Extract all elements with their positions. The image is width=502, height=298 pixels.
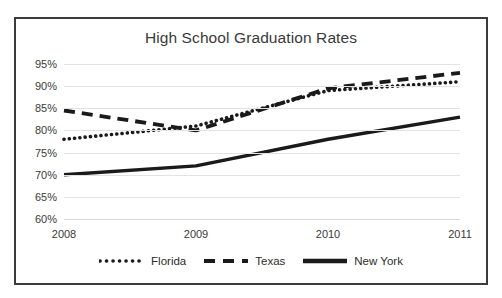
- solid-line-swatch: [302, 256, 348, 266]
- x-axis-tick-label: 2008: [52, 228, 76, 240]
- gridline: [64, 153, 460, 154]
- series-lines: [64, 64, 460, 219]
- y-axis-tick-label: 80%: [35, 124, 57, 136]
- y-axis-tick-label: 60%: [35, 213, 57, 225]
- y-axis-tick-label: 95%: [35, 58, 57, 70]
- chart-legend: FloridaTexasNew York: [16, 255, 486, 267]
- scan-margin: [0, 0, 502, 8]
- dashed-line-swatch: [203, 256, 249, 266]
- legend-item-texas[interactable]: Texas: [203, 255, 285, 267]
- gridline: [64, 64, 460, 65]
- gridline: [64, 130, 460, 131]
- chart-title: High School Graduation Rates: [16, 29, 486, 47]
- y-axis-tick-label: 75%: [35, 147, 57, 159]
- chart-screenshot: High School Graduation Rates 95%90%85%80…: [0, 0, 502, 298]
- y-axis-tick-label: 70%: [35, 169, 57, 181]
- gridline: [64, 197, 460, 198]
- plot-area: 95%90%85%80%75%70%65%60%2008200920102011: [64, 64, 460, 219]
- legend-item-florida[interactable]: Florida: [99, 255, 186, 267]
- legend-label: Texas: [255, 255, 285, 267]
- gridline: [64, 219, 460, 220]
- y-axis-tick-label: 85%: [35, 102, 57, 114]
- y-axis-tick-label: 65%: [35, 191, 57, 203]
- series-line-texas: [64, 73, 460, 131]
- gridline: [64, 86, 460, 87]
- chart-frame: High School Graduation Rates 95%90%85%80…: [14, 17, 488, 285]
- legend-label: Florida: [151, 255, 186, 267]
- x-axis-tick-label: 2010: [316, 228, 340, 240]
- gridline: [64, 108, 460, 109]
- series-line-new-york: [64, 117, 460, 175]
- dotted-line-swatch: [99, 256, 145, 266]
- y-axis-tick-label: 90%: [35, 80, 57, 92]
- x-axis-tick-label: 2011: [448, 228, 472, 240]
- legend-item-new-york[interactable]: New York: [302, 255, 403, 267]
- x-axis-tick-label: 2009: [184, 228, 208, 240]
- legend-label: New York: [354, 255, 403, 267]
- gridline: [64, 175, 460, 176]
